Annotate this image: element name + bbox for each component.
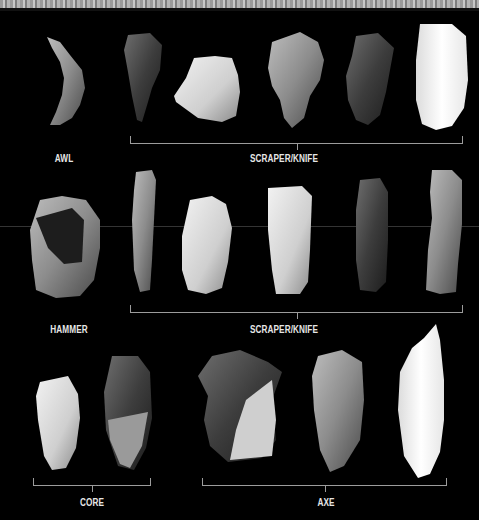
scraper-knife-label-1: SCRAPER/KNIFE	[243, 153, 325, 164]
axe-label: AXE	[310, 497, 343, 508]
bracket-stem	[92, 485, 93, 492]
scraper-5-stone	[416, 24, 468, 130]
stone-tools-figure: AWL SCRAPER/KNIFE HAMMER SCRAPER/KNIFE C…	[0, 0, 479, 520]
scraper-1-stone	[124, 33, 162, 122]
scraper-10-stone	[426, 170, 462, 294]
scraper-2-stone	[174, 56, 240, 122]
scraper-knife-bracket-1	[130, 136, 463, 144]
scraper-7-stone	[182, 196, 232, 294]
bracket-stem	[325, 485, 326, 492]
hammer-label: HAMMER	[49, 324, 90, 335]
scraper-3-stone	[268, 32, 324, 128]
scraper-6-stone	[132, 170, 156, 292]
core-1-stone	[36, 376, 80, 470]
core-bracket	[33, 478, 151, 486]
scraper-9-stone	[356, 178, 388, 292]
scraper-4-stone	[346, 33, 394, 125]
scraper-knife-label-2: SCRAPER/KNIFE	[243, 324, 325, 335]
scraper-8-stone	[268, 186, 312, 294]
axe-2-stone	[312, 350, 364, 472]
stone-tools-artwork	[0, 0, 479, 520]
scraper-knife-bracket-2	[130, 305, 463, 313]
awl-stone	[47, 37, 85, 125]
axe-bracket	[202, 478, 447, 486]
bracket-stem	[297, 312, 298, 319]
awl-label: AWL	[48, 153, 81, 164]
axe-3-stone	[398, 324, 444, 478]
core-label: CORE	[76, 497, 109, 508]
core-2-light-face	[108, 412, 148, 468]
bracket-stem	[297, 143, 298, 150]
